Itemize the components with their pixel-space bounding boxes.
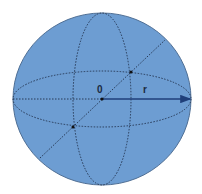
intersection-point-lower bbox=[72, 126, 75, 129]
center-point bbox=[100, 97, 103, 100]
intersection-point-upper bbox=[130, 71, 133, 74]
sphere-diagram: 0 r bbox=[0, 0, 202, 194]
center-label: 0 bbox=[97, 84, 103, 95]
sphere-graphic bbox=[0, 0, 202, 194]
radius-label: r bbox=[143, 84, 147, 95]
